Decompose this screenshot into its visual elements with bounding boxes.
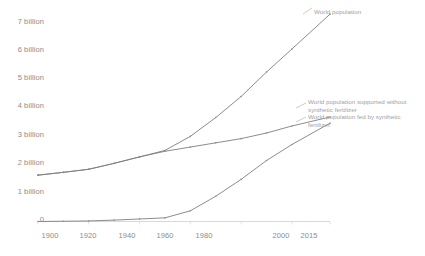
annotation-fed-by-line2: fertilizer — [308, 121, 330, 128]
annotation-supported-without-line2: synthetic fertilizer — [308, 106, 357, 113]
annotation-world-population: World population — [314, 8, 422, 16]
population-line-chart: 7 billion 6 billion 5 billion 4 billion … — [0, 0, 425, 256]
series-line-supported-without-fertilizer — [38, 117, 330, 175]
leader-line-world-population — [303, 8, 312, 14]
series-data-markers — [37, 13, 331, 222]
annotation-supported-without-line1: World population supported without — [308, 98, 407, 105]
annotation-fed-by-line1: World population fed by synthetic — [308, 113, 401, 120]
leader-line-supported-without — [296, 103, 306, 108]
annotation-fed-by-fertilizer: World population fed by synthetic fertil… — [308, 113, 425, 128]
series-line-world-population — [38, 14, 330, 175]
series-line-fed-by-fertilizer — [38, 123, 330, 221]
leader-line-fed-by — [296, 117, 306, 122]
annotation-supported-without-fertilizer: World population supported without synth… — [308, 98, 425, 113]
